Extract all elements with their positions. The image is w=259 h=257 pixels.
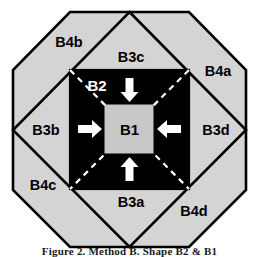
label-b2: B2: [87, 77, 106, 94]
label-b3c: B3c: [118, 49, 145, 65]
label-b3d: B3d: [202, 122, 229, 138]
label-b4d: B4d: [180, 203, 207, 219]
figure-caption: Figure 2. Method B. Shape B2 & B1: [0, 245, 259, 257]
label-b1: B1: [120, 121, 139, 138]
label-b4b: B4b: [55, 34, 83, 50]
label-b4c: B4c: [30, 177, 57, 193]
label-b3b: B3b: [32, 122, 60, 138]
label-b3a: B3a: [118, 194, 146, 210]
label-b4a: B4a: [205, 63, 233, 79]
